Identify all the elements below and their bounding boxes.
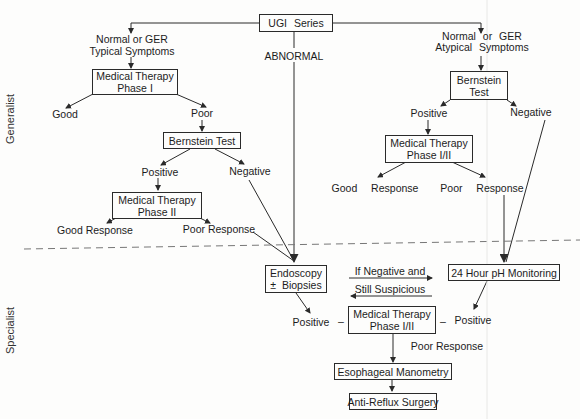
medical-therapy-label: Medical Therapy [96, 70, 173, 82]
poor-response-bottom-label: Poor Response [408, 340, 486, 352]
good-label: Good [50, 108, 80, 120]
positive-right-label: Positive [408, 107, 450, 119]
connector-lines [0, 0, 580, 419]
positive-ph-label: Positive [452, 314, 494, 326]
anti-reflux-surgery-label: Anti-Reflux Surgery [347, 396, 438, 408]
ugi-series-label: UGI Series [268, 17, 323, 29]
biopsies-label: ± Biopsies [270, 279, 321, 291]
positive-left-label: Positive [139, 166, 181, 178]
poor-response-left-label: Poor Response [182, 223, 256, 235]
bernstein-label: Bernstein [457, 74, 501, 86]
bernstein-test-right-box: Bernstein Test [450, 71, 508, 100]
poor-response-right-label: Poor Response [436, 182, 528, 194]
phase-label: Phase I [117, 82, 153, 94]
flowchart-canvas: Generalist Specialist UGI Series ABNORMA… [0, 0, 580, 419]
bernstein-test-label: Bernstein Test [169, 135, 235, 147]
medical-therapy-phase1-box: Medical Therapy Phase I [92, 69, 178, 95]
abnormal-label: ABNORMAL [263, 50, 325, 62]
negative-left-label: Negative [228, 165, 272, 177]
ph-monitoring-label: 24 Hour pH Monitoring [451, 267, 557, 279]
medical-therapy-label: Medical Therapy [390, 137, 467, 149]
bernstein-test-left-box: Bernstein Test [163, 132, 241, 149]
esophageal-manometry-box: Esophageal Manometry [334, 363, 452, 380]
divider-line [24, 240, 580, 249]
endoscopy-biopsies-box: Endoscopy ± Biopsies [265, 265, 327, 293]
phase-label: Phase II [138, 206, 177, 218]
section-label-generalist: Generalist [4, 104, 16, 144]
ph-monitoring-box: 24 Hour pH Monitoring [448, 264, 560, 281]
medical-therapy-label: Medical Therapy [353, 308, 430, 320]
test-label: Test [469, 86, 488, 98]
dash-right: – [439, 315, 447, 327]
poor-label: Poor [187, 107, 217, 119]
medical-therapy-label: Medical Therapy [118, 194, 195, 206]
if-negative-label: If Negative and [348, 265, 432, 277]
negative-right-label: Negative [508, 106, 554, 118]
medical-therapy-phase12-bottom-box: Medical Therapy Phase I/II [348, 306, 436, 334]
positive-endoscopy-label: Positive [290, 316, 332, 328]
good-response-right-label: Good Response [329, 182, 421, 194]
good-response-left-label: Good Response [56, 224, 134, 236]
esophageal-manometry-label: Esophageal Manometry [338, 366, 449, 378]
medical-therapy-phase2-box: Medical Therapy Phase II [112, 192, 202, 219]
atypical-symptoms-label-line2: Atypical Symptoms [430, 41, 534, 53]
anti-reflux-surgery-box: Anti-Reflux Surgery [349, 393, 437, 410]
section-label-specialist: Specialist [4, 314, 16, 354]
typical-symptoms-label-line1: Normal or GER [86, 33, 178, 45]
typical-symptoms-label-line2: Typical Symptoms [86, 45, 178, 57]
phase-label: Phase I/II [407, 149, 451, 161]
phase-label: Phase I/II [370, 320, 414, 332]
dash-left: – [337, 315, 345, 327]
endoscopy-label: Endoscopy [270, 267, 322, 279]
ugi-series-box: UGI Series [259, 14, 333, 32]
medical-therapy-phase12-right-box: Medical Therapy Phase I/II [385, 135, 473, 163]
still-suspicious-label: Still Suspicious [348, 283, 432, 295]
